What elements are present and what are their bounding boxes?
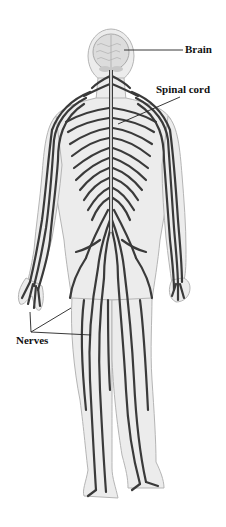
nerves-leader-line-1	[31, 308, 71, 332]
brain-label: Brain	[185, 44, 212, 55]
nerves-leader-line-3	[30, 312, 31, 332]
nervous-system-diagram	[0, 0, 226, 527]
spinal-cord-label: Spinal cord	[156, 84, 210, 95]
nerves-label: Nerves	[16, 335, 48, 346]
